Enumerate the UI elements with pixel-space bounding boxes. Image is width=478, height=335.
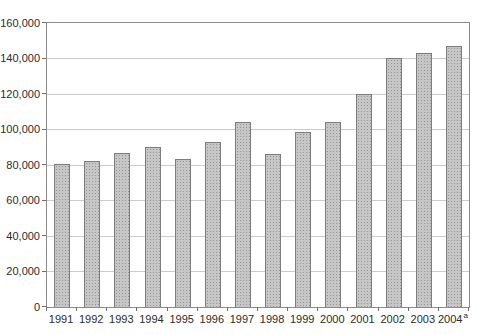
y-axis-tick-label: 80,000 bbox=[0, 159, 40, 171]
y-axis-tick-label: 40,000 bbox=[0, 230, 40, 242]
gridline bbox=[47, 58, 469, 59]
x-axis-tick-mark bbox=[106, 307, 107, 311]
x-axis-tick-mark bbox=[197, 307, 198, 311]
gridline bbox=[47, 200, 469, 201]
gridline bbox=[47, 236, 469, 237]
x-axis-tick-mark bbox=[347, 307, 348, 311]
bar-2002 bbox=[386, 58, 402, 307]
x-axis-tick-label: 2003 bbox=[407, 313, 439, 325]
x-axis-tick-mark bbox=[136, 307, 137, 311]
x-axis-tick-label: 2002 bbox=[377, 313, 409, 325]
year-label: 2003 bbox=[411, 313, 435, 325]
y-axis-tick-label: 100,000 bbox=[0, 123, 40, 135]
bar-chart: 020,00040,00060,00080,000100,000120,0001… bbox=[0, 0, 478, 335]
footnote-marker: a bbox=[463, 311, 467, 320]
x-axis-tick-mark bbox=[257, 307, 258, 311]
bar-1994 bbox=[145, 147, 161, 307]
x-axis-tick-label: 1997 bbox=[226, 313, 258, 325]
x-axis-tick-mark bbox=[167, 307, 168, 311]
x-axis-tick-label: 1991 bbox=[45, 313, 77, 325]
bar-1998 bbox=[265, 154, 281, 307]
bar-1996 bbox=[205, 142, 221, 307]
y-axis-tick-label: 20,000 bbox=[0, 265, 40, 277]
x-axis-tick-mark bbox=[227, 307, 228, 311]
bar-1999 bbox=[295, 132, 311, 307]
year-label: 1992 bbox=[79, 313, 103, 325]
year-label: 2002 bbox=[380, 313, 404, 325]
x-axis-tick-label: 2000 bbox=[316, 313, 348, 325]
x-axis-tick-mark bbox=[46, 307, 47, 311]
year-label: 2000 bbox=[320, 313, 344, 325]
x-axis-tick-mark bbox=[378, 307, 379, 311]
year-label: 1991 bbox=[49, 313, 73, 325]
y-axis-tick-label: 60,000 bbox=[0, 194, 40, 206]
x-axis-tick-label: 2001 bbox=[347, 313, 379, 325]
y-axis-tick-label: 140,000 bbox=[0, 52, 40, 64]
bar-2003 bbox=[416, 53, 432, 307]
x-axis-tick-mark bbox=[76, 307, 77, 311]
x-axis-tick-label: 1992 bbox=[75, 313, 107, 325]
gridline bbox=[47, 129, 469, 130]
year-label: 1994 bbox=[139, 313, 163, 325]
x-axis-tick-label: 1993 bbox=[105, 313, 137, 325]
bar-1993 bbox=[114, 153, 130, 307]
bar-1991 bbox=[54, 164, 70, 307]
year-label: 1999 bbox=[290, 313, 314, 325]
bar-2000 bbox=[325, 122, 341, 307]
year-label: 1998 bbox=[260, 313, 284, 325]
x-axis-tick-label: 1996 bbox=[196, 313, 228, 325]
x-axis-tick-mark bbox=[468, 307, 469, 311]
x-axis-tick-label: 2004a bbox=[437, 313, 469, 325]
year-label: 1993 bbox=[109, 313, 133, 325]
gridline bbox=[47, 94, 469, 95]
y-axis-tick-label: 120,000 bbox=[0, 88, 40, 100]
bar-1995 bbox=[175, 159, 191, 307]
gridline bbox=[47, 271, 469, 272]
bar-1992 bbox=[84, 161, 100, 307]
bar-2001 bbox=[356, 94, 372, 307]
x-axis-tick-label: 1994 bbox=[136, 313, 168, 325]
year-label: 2001 bbox=[350, 313, 374, 325]
y-axis-tick-label: 0 bbox=[0, 301, 40, 313]
bar-1997 bbox=[235, 122, 251, 307]
x-axis-tick-label: 1999 bbox=[286, 313, 318, 325]
year-label: 1996 bbox=[200, 313, 224, 325]
x-axis-tick-mark bbox=[438, 307, 439, 311]
x-axis-tick-label: 1998 bbox=[256, 313, 288, 325]
gridline bbox=[47, 165, 469, 166]
year-label: 1995 bbox=[169, 313, 193, 325]
bar-2004 bbox=[446, 46, 462, 307]
plot-area bbox=[46, 22, 470, 308]
x-axis-tick-mark bbox=[317, 307, 318, 311]
x-axis-tick-mark bbox=[408, 307, 409, 311]
y-axis-tick-label: 160,000 bbox=[0, 17, 40, 29]
year-label: 2004 bbox=[438, 313, 462, 325]
x-axis-tick-mark bbox=[287, 307, 288, 311]
year-label: 1997 bbox=[230, 313, 254, 325]
x-axis-tick-label: 1995 bbox=[166, 313, 198, 325]
